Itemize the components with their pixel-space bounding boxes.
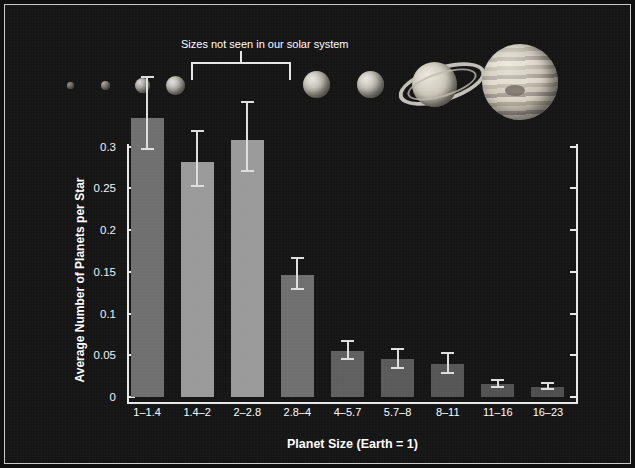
error-bar-cap-bottom	[441, 372, 454, 374]
planet-icon-super-earth	[101, 81, 110, 90]
x-tick-label-5: 4–5.7	[322, 406, 372, 418]
y-tick-right	[570, 187, 576, 189]
error-bar-5	[338, 340, 358, 360]
figure-canvas: Sizes not seen in our solar system 00.05…	[0, 0, 635, 468]
x-axis-line	[127, 402, 578, 404]
bar-1	[131, 118, 164, 397]
x-tick-label-7: 8–11	[423, 406, 473, 418]
error-bar-line	[146, 76, 148, 150]
error-bar-cap-bottom	[191, 185, 204, 187]
x-tick-label-4: 2.8–4	[272, 406, 322, 418]
y-tick-right	[570, 229, 576, 231]
x-tick-label-8: 11–16	[473, 406, 523, 418]
bar-3	[231, 140, 264, 397]
x-tick-label-3: 2–2.8	[222, 406, 272, 418]
x-tick-label-6: 5.7–8	[373, 406, 423, 418]
error-bar-cap-top	[141, 76, 154, 78]
x-tick-label-2: 1.4–2	[172, 406, 222, 418]
error-bar-cap-top	[241, 101, 254, 103]
error-bar-7	[438, 352, 458, 375]
error-bar-line	[447, 352, 449, 375]
planet-icon-saturn	[394, 50, 490, 118]
bar-4	[281, 275, 314, 397]
x-tick-label-9: 16–23	[523, 406, 573, 418]
error-bar-cap-top	[191, 130, 204, 132]
error-bar-cap-top	[391, 348, 404, 350]
planet-icon-earth-small	[67, 82, 74, 89]
error-bar-cap-bottom	[141, 148, 154, 150]
error-bar-cap-bottom	[391, 367, 404, 369]
error-bar-8	[488, 379, 508, 388]
y-tick-right	[570, 271, 576, 273]
annotation-label: Sizes not seen in our solar system	[181, 38, 349, 50]
y-axis-title: Average Number of Planets per Star	[73, 165, 87, 395]
error-bar-cap-top	[291, 257, 304, 259]
error-bar-line	[347, 340, 349, 360]
x-tick-label-1: 1–1.4	[122, 406, 172, 418]
planet-icon-uranus	[357, 71, 384, 98]
error-bar-2	[187, 130, 207, 187]
error-bar-cap-top	[491, 379, 504, 381]
error-bar-6	[388, 348, 408, 370]
error-bar-cap-bottom	[241, 170, 254, 172]
y-tick-right	[570, 354, 576, 356]
planet-icon-neptune	[303, 71, 330, 98]
y-tick-label: 0.3	[76, 141, 116, 153]
error-bar-1	[137, 76, 157, 150]
bar-2	[181, 162, 214, 397]
error-bar-cap-bottom	[491, 386, 504, 388]
error-bar-3	[237, 101, 257, 172]
x-axis-title: Planet Size (Earth = 1)	[127, 437, 578, 451]
error-bar-line	[196, 130, 198, 187]
chart-panel: Sizes not seen in our solar system 00.05…	[5, 5, 630, 463]
error-bar-cap-bottom	[291, 288, 304, 290]
jupiter-great-red-spot-icon	[505, 85, 525, 96]
y-tick-right	[570, 313, 576, 315]
annotation-bracket	[191, 62, 291, 80]
error-bar-line	[397, 348, 399, 370]
error-bar-cap-top	[441, 352, 454, 354]
y-axis-line-right	[576, 144, 578, 404]
planet-icon-jupiter	[482, 44, 558, 120]
error-bar-cap-top	[541, 382, 554, 384]
error-bar-cap-top	[341, 340, 354, 342]
annotation-bracket-stem	[240, 51, 242, 63]
y-tick-right	[570, 146, 576, 148]
error-bar-cap-bottom	[341, 358, 354, 360]
error-bar-line	[296, 257, 298, 290]
error-bar-9	[538, 382, 558, 390]
error-bar-cap-bottom	[541, 388, 554, 390]
error-bar-line	[246, 101, 248, 172]
y-tick-right	[570, 396, 576, 398]
y-axis-line	[127, 144, 129, 404]
planet-icon-sub-neptune	[166, 76, 185, 95]
error-bar-4	[287, 257, 307, 290]
